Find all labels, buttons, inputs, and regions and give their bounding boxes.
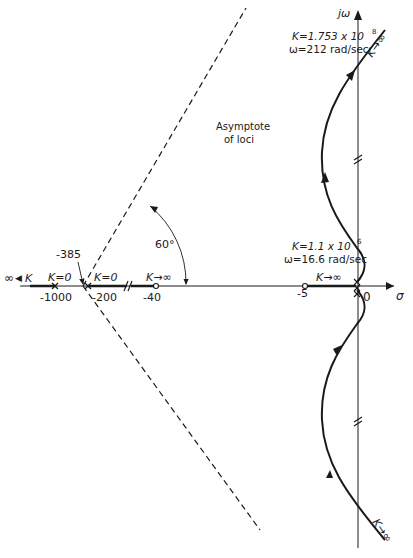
- angle-label: 60°: [155, 238, 175, 251]
- zero-m40-icon: [154, 284, 159, 289]
- root-locus-diagram: jω σ 0 -1000 -385 -200 -40 -5 Asymptote …: [0, 0, 413, 558]
- locus-lower-arrow-2-icon: [326, 470, 333, 478]
- kinf-m40-label: K→∞: [146, 271, 172, 284]
- crossing-top-k-exp: 8: [372, 28, 376, 36]
- kinf-bottom-label: K→∞: [370, 516, 395, 544]
- asymptote-label-2: of loci: [224, 134, 254, 145]
- left-k-label: K: [25, 272, 33, 285]
- tick-m200: -200: [92, 291, 117, 304]
- k0-label-b: K=0: [94, 271, 117, 284]
- left-infinity-label: ∞: [4, 271, 14, 285]
- crossing-low-w: ω=16.6 rad/sec: [284, 253, 367, 265]
- tick-m1000: -1000: [40, 291, 72, 304]
- imag-axis-label: jω: [336, 7, 350, 20]
- crossing-top-k: K=1.753 x 10: [292, 30, 364, 42]
- crossing-top-w: ω=212 rad/sec: [289, 43, 369, 55]
- locus-lower-branch: [322, 290, 385, 540]
- m385-pointer: [78, 262, 83, 284]
- crossing-low-k: K=1.1 x 10: [292, 240, 351, 252]
- real-axis-label: σ: [396, 289, 404, 303]
- k0-label-a: K=0: [48, 271, 71, 284]
- kinf-m5-label: K→∞: [316, 271, 342, 284]
- locus-lower-arrow-1-icon: [333, 345, 342, 356]
- real-axis-arrow-icon: [386, 282, 394, 290]
- asymptote-label-1: Asymptote: [216, 121, 270, 132]
- pole-origin-double-icon: [354, 279, 360, 297]
- origin-label: 0: [363, 290, 371, 304]
- crossing-low-k-exp: 6: [357, 238, 362, 246]
- tick-m40: -40: [143, 291, 161, 304]
- asymptote-lower: [83, 286, 260, 530]
- tick-m385: -385: [56, 248, 81, 261]
- imag-axis-arrow-icon: [354, 10, 362, 20]
- tick-m5: -5: [297, 287, 308, 300]
- left-arrow-icon: ◀: [15, 273, 22, 283]
